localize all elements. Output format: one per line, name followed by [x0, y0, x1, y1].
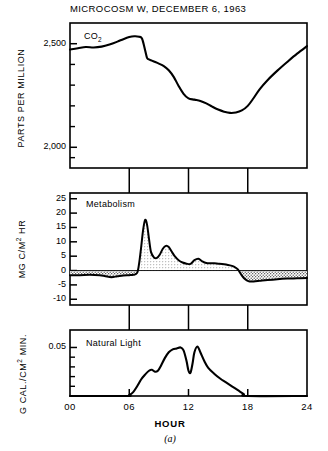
y-tick-label: -10 — [6, 293, 66, 303]
data-curve-bottom — [70, 347, 307, 397]
panel-frame-middle — [70, 193, 307, 305]
xaxis-title: HOUR — [154, 418, 185, 429]
y-tick-label: -5 — [6, 279, 66, 289]
y-tick-label: 2,000 — [6, 141, 66, 151]
y-tick-label: 0.05 — [6, 341, 66, 351]
metabolism-negative-area — [70, 220, 307, 282]
panel-label-co2: CO2 — [84, 31, 102, 43]
y-tick-label: 2,500 — [6, 38, 66, 48]
panel-label-metabolism: Metabolism — [86, 199, 135, 209]
y-tick-label: 10 — [6, 236, 66, 246]
y-tick-label: 5 — [6, 250, 66, 260]
yaxis-title-top: PARTS PER MILLION — [16, 43, 26, 153]
x-tick-label: 00 — [50, 401, 90, 412]
y-tick-label: 0 — [6, 265, 66, 275]
y-tick-label: 20 — [6, 207, 66, 217]
figure-title: MICROCOSM W, DECEMBER 6, 1963 — [70, 3, 246, 14]
x-tick-label: 06 — [109, 401, 149, 412]
x-tick-label: 12 — [169, 401, 209, 412]
yaxis-title-bottom: G CAL./CM2 MIN. — [16, 324, 28, 424]
panel-label-natural-light: Natural Light — [86, 338, 141, 348]
figure-caption: (a) — [164, 433, 176, 444]
x-tick-label: 24 — [287, 401, 327, 412]
y-tick-label: 25 — [6, 193, 66, 203]
data-curve-top — [70, 36, 307, 113]
figure-container: MICROCOSM W, DECEMBER 6, 1963 CO2 Metabo… — [0, 0, 328, 451]
y-tick-label: 15 — [6, 221, 66, 231]
x-tick-label: 18 — [228, 401, 268, 412]
